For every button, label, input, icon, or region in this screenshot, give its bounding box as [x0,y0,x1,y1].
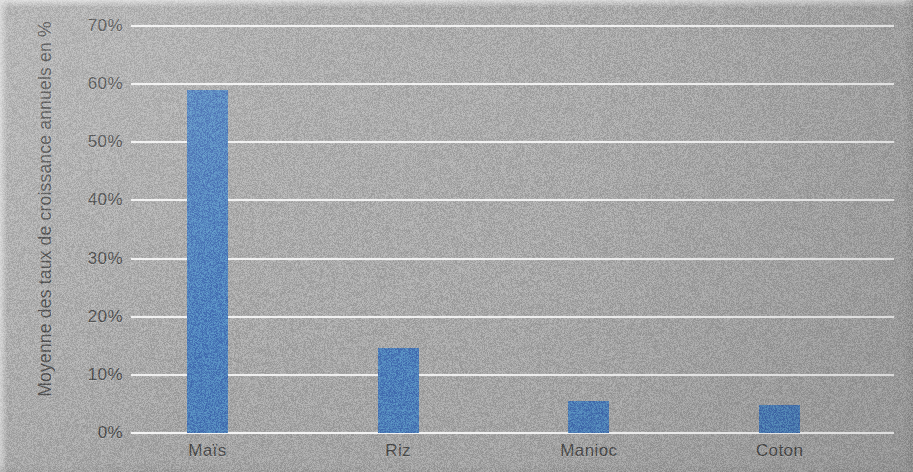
gridline-20 [131,316,894,318]
gridline-10 [131,374,894,376]
x-category-label: Riz [385,441,411,461]
scan-edge-top [0,0,913,7]
bar [378,348,419,433]
x-category-label: Coton [756,441,803,461]
bar [568,401,609,433]
gridline-30 [131,258,894,260]
gridline-70 [131,25,894,27]
x-category-label: Maïs [188,441,226,461]
bar [759,405,800,433]
scan-edge-right [904,0,913,472]
bar [187,90,228,433]
gridline-60 [131,83,894,85]
scan-edge-bottom [0,464,913,472]
gridline-40 [131,199,894,201]
plot-area [131,26,894,433]
y-axis-title: Moyenne des taux de croissance annuels e… [30,0,60,445]
x-category-label: Manioc [560,441,617,461]
bar-chart-figure: 0%10%20%30%40%50%60%70% MaïsRizManiocCot… [0,0,913,472]
scan-edge-left [0,0,7,472]
gridline-50 [131,141,894,143]
